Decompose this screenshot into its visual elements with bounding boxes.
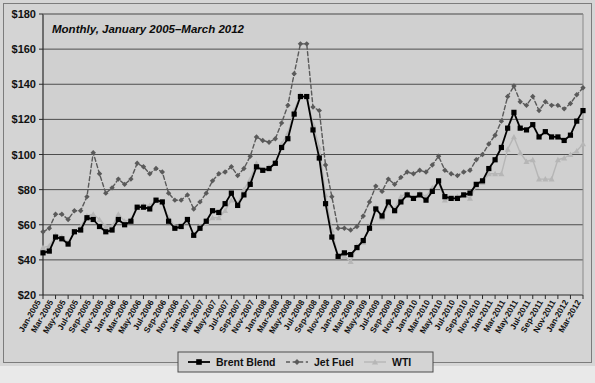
data-marker: [317, 155, 322, 160]
data-marker: [196, 359, 202, 365]
y-tick-label: $140: [12, 78, 36, 90]
data-marker: [524, 127, 529, 132]
data-marker: [97, 224, 102, 229]
legend-item-label: Brent Blend: [216, 356, 276, 368]
data-marker: [574, 119, 579, 124]
data-marker: [386, 199, 391, 204]
data-marker: [59, 236, 64, 241]
data-marker: [210, 208, 215, 213]
data-marker: [430, 189, 435, 194]
data-marker: [222, 201, 227, 206]
data-marker: [568, 133, 573, 138]
data-marker: [530, 122, 535, 127]
data-marker: [160, 199, 165, 204]
data-marker: [141, 205, 146, 210]
data-marker: [204, 219, 209, 224]
data-marker: [260, 168, 265, 173]
data-marker: [47, 248, 52, 253]
data-marker: [348, 252, 353, 257]
data-marker: [329, 234, 334, 239]
data-marker: [78, 227, 83, 232]
data-marker: [455, 196, 460, 201]
data-marker: [323, 201, 328, 206]
data-marker: [241, 192, 246, 197]
data-marker: [486, 166, 491, 171]
legend-item-label: WTI: [392, 356, 411, 368]
data-marker: [417, 192, 422, 197]
data-marker: [197, 226, 202, 231]
chart-legend: Brent BlendJet FuelWTI: [178, 352, 433, 372]
data-marker: [436, 178, 441, 183]
data-marker: [266, 166, 271, 171]
data-marker: [492, 157, 497, 162]
data-marker: [474, 182, 479, 187]
data-marker: [128, 219, 133, 224]
data-marker: [511, 110, 516, 115]
data-marker: [367, 226, 372, 231]
y-tick-label: $40: [18, 254, 36, 266]
data-marker: [91, 217, 96, 222]
data-marker: [467, 191, 472, 196]
data-marker: [423, 198, 428, 203]
data-marker: [518, 126, 523, 131]
data-marker: [172, 226, 177, 231]
data-marker: [379, 213, 384, 218]
data-marker: [304, 94, 309, 99]
data-marker: [116, 217, 121, 222]
data-marker: [342, 250, 347, 255]
data-marker: [562, 138, 567, 143]
data-marker: [279, 145, 284, 150]
y-tick-label: $80: [18, 184, 36, 196]
data-marker: [273, 161, 278, 166]
data-marker: [549, 134, 554, 139]
data-marker: [103, 229, 108, 234]
data-marker: [179, 224, 184, 229]
y-tick-label: $100: [12, 149, 36, 161]
data-marker: [109, 227, 114, 232]
data-marker: [336, 254, 341, 259]
data-marker: [122, 222, 127, 227]
data-marker: [135, 205, 140, 210]
data-marker: [229, 191, 234, 196]
data-marker: [354, 245, 359, 250]
data-marker: [442, 194, 447, 199]
chart-figure: $20$40$60$80$100$120$140$160$180Jan-2005…: [0, 0, 595, 383]
data-marker: [461, 192, 466, 197]
data-marker: [505, 126, 510, 131]
y-tick-label: $120: [12, 113, 36, 125]
data-marker: [543, 129, 548, 134]
data-marker: [72, 229, 77, 234]
data-marker: [147, 206, 152, 211]
data-marker: [392, 208, 397, 213]
data-marker: [398, 199, 403, 204]
chart-title: Monthly, January 2005–March 2012: [52, 23, 245, 35]
data-marker: [53, 234, 58, 239]
data-marker: [405, 192, 410, 197]
data-marker: [411, 196, 416, 201]
data-marker: [84, 215, 89, 220]
data-marker: [66, 241, 71, 246]
data-marker: [373, 206, 378, 211]
data-marker: [449, 196, 454, 201]
data-marker: [254, 164, 259, 169]
data-marker: [285, 136, 290, 141]
data-marker: [248, 182, 253, 187]
chart-plot: $20$40$60$80$100$120$140$160$180Jan-2005…: [0, 0, 595, 383]
y-tick-label: $160: [12, 43, 36, 55]
y-tick-label: $180: [12, 8, 36, 20]
data-marker: [536, 134, 541, 139]
data-marker: [216, 210, 221, 215]
data-marker: [361, 238, 366, 243]
data-marker: [555, 134, 560, 139]
data-marker: [580, 108, 585, 113]
data-marker: [480, 178, 485, 183]
data-marker: [298, 94, 303, 99]
data-marker: [310, 127, 315, 132]
data-marker: [185, 217, 190, 222]
data-marker: [292, 112, 297, 117]
legend-item-label: Jet Fuel: [314, 356, 354, 368]
x-ticks: Jan-2005Mar-2005May-2005Jul-2005Sep-2005…: [16, 295, 583, 335]
data-marker: [40, 250, 45, 255]
data-marker: [153, 198, 158, 203]
y-tick-label: $60: [18, 219, 36, 231]
